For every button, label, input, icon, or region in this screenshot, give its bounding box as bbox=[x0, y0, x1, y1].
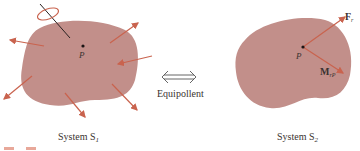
system2-caption-text: System S bbox=[277, 131, 315, 142]
equipollent-label: Equipollent bbox=[157, 88, 204, 99]
system2-caption-sub: 2 bbox=[315, 136, 319, 144]
point-p-label-s2: P bbox=[296, 51, 302, 61]
system1-caption: System S1 bbox=[58, 131, 99, 144]
diagram-canvas bbox=[0, 0, 360, 151]
force-subscript: r bbox=[351, 17, 353, 23]
point-p-s2 bbox=[301, 45, 304, 48]
moment-subscript: rP bbox=[329, 72, 335, 78]
equipollent-arrow-icon bbox=[162, 71, 196, 83]
figure-caption-fragment bbox=[0, 146, 40, 151]
couple-swirl-icon bbox=[36, 6, 60, 23]
system1-caption-text: System S bbox=[58, 131, 96, 142]
rigid-body-s2 bbox=[235, 18, 351, 108]
point-p-s1 bbox=[81, 44, 84, 47]
system2-caption: System S2 bbox=[277, 131, 318, 144]
moment-label: MrP bbox=[320, 66, 335, 78]
system1-caption-sub: 1 bbox=[96, 136, 100, 144]
point-p-label-s1: P bbox=[79, 50, 85, 60]
force-label: Fr bbox=[345, 11, 353, 23]
